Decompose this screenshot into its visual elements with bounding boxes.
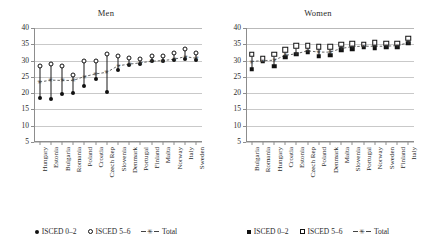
legend-item[interactable]: ✳Total (353, 227, 389, 236)
legend-item[interactable]: ISCED 5–6 (88, 227, 131, 236)
dashed-star-icon: ✳ (141, 228, 159, 236)
x-tick (174, 142, 175, 145)
legend-item[interactable]: ISCED 5–6 (300, 227, 343, 236)
x-axis-label: Norway (177, 147, 184, 170)
x-tick (386, 142, 387, 145)
series-high-marker (116, 54, 121, 59)
series-total-marker: ✳ (395, 43, 400, 48)
series-low-marker (249, 67, 254, 72)
legend-label: ISCED 5–6 (308, 227, 343, 236)
series-total-marker: ✳ (372, 44, 377, 49)
series-total-marker: ✳ (384, 44, 389, 49)
x-tick (39, 142, 40, 145)
axes-women: 510152025303540BulgariaRomaniaHungaryCro… (246, 28, 414, 142)
series-high-marker (183, 46, 188, 51)
y-axis-label: 20 (234, 89, 242, 97)
x-axis-label: Poland (87, 147, 94, 166)
x-tick (352, 142, 353, 145)
gridline (34, 28, 202, 29)
x-tick (196, 142, 197, 145)
x-tick (296, 142, 297, 145)
x-tick (341, 142, 342, 145)
series-total-marker: ✳ (260, 58, 265, 63)
gridline (34, 109, 202, 110)
x-tick (50, 142, 51, 145)
y-tick (243, 142, 246, 143)
x-axis-label: Poland (321, 147, 328, 166)
gridline (34, 44, 202, 45)
x-axis-label: Malta (344, 147, 351, 163)
x-tick (185, 142, 186, 145)
series-high-marker (82, 59, 87, 64)
x-tick (95, 142, 96, 145)
legend-label: Total (162, 227, 177, 236)
x-tick (330, 142, 331, 145)
x-tick (73, 142, 74, 145)
y-axis-label: 5 (25, 138, 29, 146)
series-total-marker: ✳ (406, 40, 411, 45)
legend-item[interactable]: ISCED 0–2 (247, 227, 289, 236)
gridline (246, 93, 414, 94)
series-total-marker: ✳ (172, 57, 177, 62)
y-axis-label: 15 (22, 106, 30, 114)
series-total-marker: ✳ (82, 74, 87, 79)
x-axis-label: Czech Rep (310, 147, 317, 178)
y-axis (246, 28, 247, 142)
plot-area-women: 510152025303540BulgariaRomaniaHungaryCro… (246, 28, 414, 142)
x-tick (285, 142, 286, 145)
x-tick (151, 142, 152, 145)
x-tick (162, 142, 163, 145)
x-axis-label: Portugal (366, 147, 373, 171)
x-tick (374, 142, 375, 145)
x-axis-label: Croatia (98, 147, 105, 168)
axes-men: 510152025303540HungaryEstoniaBulgariaRom… (34, 28, 202, 142)
x-tick (307, 142, 308, 145)
y-axis-label: 25 (234, 73, 242, 81)
x-tick (84, 142, 85, 145)
filled-square-icon (247, 230, 251, 234)
series-low-marker (82, 84, 86, 88)
x-axis-label: Bulgaria (65, 147, 72, 171)
filled-circle-icon (35, 230, 39, 234)
series-high-marker (48, 61, 53, 66)
legend-men: ISCED 0–2ISCED 5–6✳Total (0, 227, 212, 236)
panel-men: Men 510152025303540HungaryEstoniaBulgari… (0, 0, 212, 244)
x-tick (129, 142, 130, 145)
gridline (246, 109, 414, 110)
x-tick (251, 142, 252, 145)
x-tick (363, 142, 364, 145)
series-total-marker: ✳ (127, 62, 132, 67)
panel-title-women: Women (212, 8, 424, 18)
series-low-marker (317, 54, 322, 59)
series-high-marker (294, 43, 300, 49)
legend-item[interactable]: ✳Total (141, 227, 177, 236)
legend-label: ISCED 0–2 (42, 227, 77, 236)
y-axis-label: 40 (22, 24, 30, 32)
x-tick (106, 142, 107, 145)
series-total-marker: ✳ (149, 59, 154, 64)
panel-title-men: Men (0, 8, 212, 18)
x-axis-label: Hungary (42, 147, 49, 172)
series-high-marker (60, 64, 65, 69)
series-total-marker: ✳ (272, 58, 277, 63)
series-total-marker: ✳ (37, 80, 42, 85)
series-total-marker: ✳ (194, 56, 199, 61)
y-axis-label: 35 (22, 41, 30, 49)
series-total-marker: ✳ (294, 51, 299, 56)
legend-item[interactable]: ISCED 0–2 (35, 227, 77, 236)
series-total-marker: ✳ (116, 63, 121, 68)
series-total-marker: ✳ (328, 50, 333, 55)
y-axis-label: 25 (22, 73, 30, 81)
plot-area-men: 510152025303540HungaryEstoniaBulgariaRom… (34, 28, 202, 142)
series-total-marker: ✳ (71, 78, 76, 83)
x-axis-label: Italy (188, 147, 195, 160)
series-total-marker: ✳ (361, 44, 366, 49)
series-total-marker: ✳ (60, 78, 65, 83)
legend-label: ISCED 0–2 (254, 227, 289, 236)
x-axis-label: Norway (377, 147, 384, 170)
series-low-marker (116, 68, 120, 72)
x-axis-label: Denmark (132, 147, 139, 173)
x-axis-label: Italy (411, 147, 418, 160)
y-axis-label: 15 (234, 106, 242, 114)
chart-figure: Men 510152025303540HungaryEstoniaBulgari… (0, 0, 424, 244)
